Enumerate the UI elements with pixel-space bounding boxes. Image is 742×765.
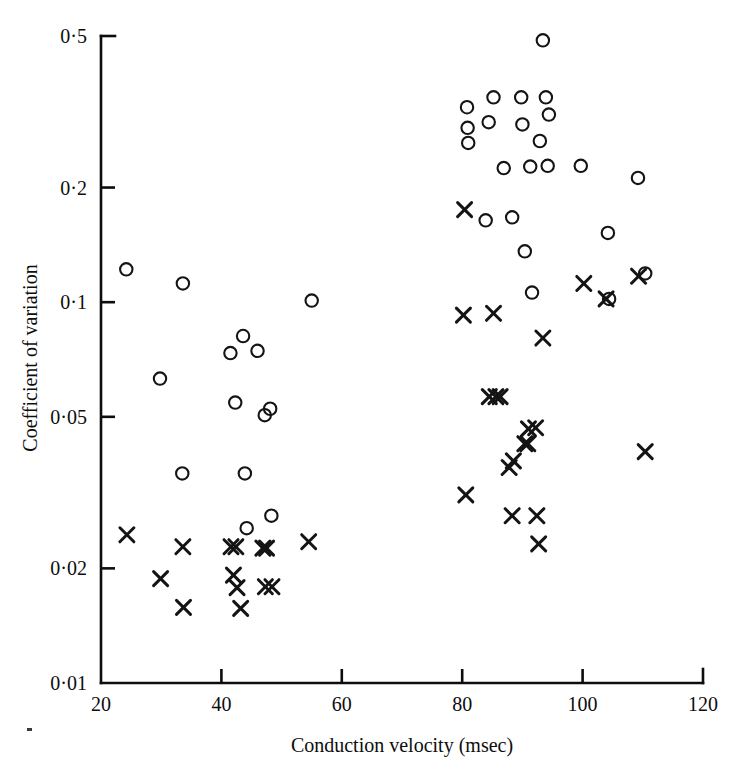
scatter-plot: 0·010·020·050·10·20·5 20406080100120 Con… xyxy=(0,0,742,765)
x-tick-label-3: 80 xyxy=(452,693,472,715)
x-tick-label-4: 100 xyxy=(568,693,598,715)
x-tick-label-0: 20 xyxy=(91,693,111,715)
data-point-circle-35 xyxy=(632,172,644,184)
y-axis-title: Coefficient of variation xyxy=(19,264,41,451)
y-tick-label-4: 0·2 xyxy=(60,177,87,199)
data-point-circle-21 xyxy=(506,211,518,223)
data-point-cross-1 xyxy=(154,572,168,586)
data-point-circle-29 xyxy=(540,91,552,103)
x-tick-labels: 20406080100120 xyxy=(91,693,718,715)
figure-root: 0·010·020·050·10·20·5 20406080100120 Con… xyxy=(0,0,742,765)
data-point-circle-25 xyxy=(524,160,536,172)
x-tick-label-2: 60 xyxy=(332,693,352,715)
data-point-cross-28 xyxy=(530,509,544,523)
data-point-circle-4 xyxy=(224,347,236,359)
data-point-circle-23 xyxy=(516,118,528,130)
data-point-circle-1 xyxy=(154,372,166,384)
data-point-cross-13 xyxy=(302,535,316,549)
page-speck xyxy=(27,728,32,731)
x-tick-label-5: 120 xyxy=(688,693,718,715)
y-tick-label-0: 0·01 xyxy=(50,672,87,694)
data-point-cross-22 xyxy=(506,454,520,468)
data-point-cross-14 xyxy=(458,203,472,217)
data-point-circle-0 xyxy=(120,263,132,275)
data-point-circle-5 xyxy=(229,396,241,408)
data-point-circle-2 xyxy=(177,277,189,289)
data-point-circle-20 xyxy=(498,162,510,174)
data-point-circle-15 xyxy=(461,122,473,134)
data-point-circle-24 xyxy=(519,245,531,257)
data-point-circle-14 xyxy=(461,101,473,113)
data-point-circle-28 xyxy=(537,34,549,46)
data-point-cross-8 xyxy=(234,601,248,615)
tick-marks xyxy=(101,188,583,683)
data-point-circle-22 xyxy=(515,91,527,103)
y-tick-label-2: 0·05 xyxy=(50,406,87,428)
data-point-cross-3 xyxy=(176,600,190,614)
data-point-cross-20 xyxy=(487,306,501,320)
y-tick-label-1: 0·02 xyxy=(50,557,87,579)
y-tick-labels: 0·010·020·050·10·20·5 xyxy=(50,25,87,694)
data-point-circle-16 xyxy=(462,137,474,149)
data-point-cross-31 xyxy=(577,276,591,290)
data-point-circle-26 xyxy=(526,286,538,298)
data-point-circle-9 xyxy=(240,522,252,534)
data-point-circle-12 xyxy=(265,509,277,521)
data-point-cross-16 xyxy=(459,488,473,502)
data-point-circle-30 xyxy=(543,108,555,120)
axes xyxy=(101,36,703,683)
data-point-circle-31 xyxy=(541,160,553,172)
data-point-circle-6 xyxy=(239,467,251,479)
data-point-circle-7 xyxy=(237,330,249,342)
data-point-circle-18 xyxy=(482,116,494,128)
data-point-cross-2 xyxy=(176,540,190,554)
data-point-circle-33 xyxy=(602,227,614,239)
data-point-cross-6 xyxy=(226,568,240,582)
data-point-circle-3 xyxy=(176,467,188,479)
data-point-cross-30 xyxy=(536,331,550,345)
x-axis-title: Conduction velocity (msec) xyxy=(291,734,513,757)
data-point-circle-13 xyxy=(306,294,318,306)
y-tick-label-3: 0·1 xyxy=(60,291,87,313)
data-point-cross-15 xyxy=(456,308,470,322)
data-point-cross-34 xyxy=(638,445,652,459)
data-point-circle-17 xyxy=(479,214,491,226)
data-markers xyxy=(120,34,652,615)
data-point-circle-27 xyxy=(534,135,546,147)
data-point-cross-7 xyxy=(230,581,244,595)
y-tick-label-5: 0·5 xyxy=(60,25,87,47)
data-point-cross-23 xyxy=(505,509,519,523)
data-point-cross-29 xyxy=(532,537,546,551)
data-point-circle-19 xyxy=(487,91,499,103)
x-tick-label-1: 40 xyxy=(211,693,231,715)
data-point-circle-8 xyxy=(251,345,263,357)
data-point-circle-32 xyxy=(575,160,587,172)
data-point-cross-0 xyxy=(120,528,134,542)
